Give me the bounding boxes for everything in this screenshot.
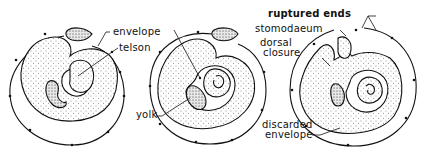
label-stomodaeum: stomodaeum [255, 24, 323, 34]
stage-2-embryo [149, 28, 266, 144]
stage-1-embryo [9, 28, 126, 146]
embryo-development-diagram: envelope telson yolk ruptured ends stomo… [0, 0, 424, 156]
label-ruptured-ends: ruptured ends [268, 9, 351, 19]
label-telson: telson [119, 43, 151, 53]
label-discarded-envelope: discarded envelope [262, 120, 313, 140]
label-yolk: yolk [136, 110, 157, 120]
label-discarded-envelope-line2: envelope [262, 129, 313, 140]
label-envelope: envelope [113, 27, 161, 37]
diagram-drawing [0, 0, 424, 156]
label-dorsal-closure-line2: closure [260, 47, 300, 58]
label-dorsal-closure: dorsal closure [260, 38, 300, 58]
